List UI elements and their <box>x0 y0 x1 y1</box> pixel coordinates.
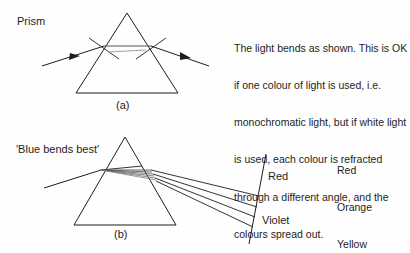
explanation-text: The light bends as shown. This is OK if … <box>234 17 410 253</box>
prism-a-triangle <box>76 13 178 93</box>
figure-caption-a: (a) <box>116 99 129 112</box>
blue-bends-best-label: 'Blue bends best' <box>16 143 99 156</box>
screen-label-red: Red <box>268 170 288 183</box>
incident-ray-a-extension <box>89 38 119 59</box>
internal-dispersion-fan-b <box>101 170 156 180</box>
diagram-page: Prism (a) (b) 'Blue bends best' The ligh… <box>0 0 410 253</box>
explanation-line: is used, each colour is refracted <box>234 153 410 165</box>
explanation-line: if one colour of light is used, i.e. <box>234 79 410 91</box>
screen-label-violet: Violet <box>262 214 289 227</box>
emergent-ray-a-extension <box>136 38 166 59</box>
incident-white-ray-b <box>44 170 101 188</box>
explanation-line: colours spread out. <box>234 228 410 240</box>
internal-ray-a-lower <box>108 50 146 52</box>
spectrum-colour-item: Orange <box>337 201 372 213</box>
spectrum-colour-item: Red <box>337 164 372 176</box>
figure-a-group <box>42 13 209 93</box>
page-title: Prism <box>17 15 45 28</box>
explanation-line: through a different angle, and the <box>234 191 410 203</box>
spectrum-colour-item: Yellow <box>337 238 372 250</box>
spectrum-colour-list: Red Orange Yellow Green Blue Indigo Viol… <box>337 140 372 253</box>
figure-caption-b: (b) <box>114 228 127 241</box>
explanation-line: The light bends as shown. This is OK <box>234 42 410 54</box>
explanation-line: monochromatic light, but if white light <box>234 116 410 128</box>
